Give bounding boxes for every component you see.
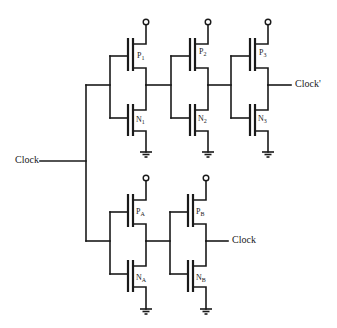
label-nb: NB <box>196 274 206 283</box>
label-n1: N1 <box>136 116 145 125</box>
clock-output-label: Clock <box>232 235 256 245</box>
nmos-n2 <box>171 85 214 157</box>
vdd-terminal-icon <box>143 19 149 25</box>
ground-icon <box>140 309 152 314</box>
label-p1: P1 <box>137 52 144 61</box>
label-pa: PA <box>136 208 145 217</box>
inverter-chain-schematic <box>0 0 337 328</box>
inverter-stage-b <box>170 175 228 314</box>
nmos-n3 <box>231 85 274 157</box>
vdd-terminal-icon <box>205 19 211 25</box>
vdd-terminal-icon <box>265 19 271 25</box>
clock-input-wire <box>40 85 110 241</box>
inverter-stage-3 <box>231 19 291 157</box>
label-n2: N2 <box>198 115 207 124</box>
label-n3: N3 <box>258 115 267 124</box>
ground-icon <box>262 152 274 157</box>
clock-prime-output-label: Clock' <box>295 79 321 89</box>
clock-input-label: Clock <box>15 155 39 165</box>
ground-icon <box>202 152 214 157</box>
ground-icon <box>140 152 152 157</box>
inverter-stage-2 <box>171 19 231 157</box>
label-pb: PB <box>196 208 204 217</box>
ground-icon <box>200 309 212 314</box>
label-na: NA <box>136 274 146 283</box>
vdd-terminal-icon <box>143 175 149 181</box>
label-p2: P2 <box>199 48 206 57</box>
vdd-terminal-icon <box>203 175 209 181</box>
inverter-stage-1 <box>110 19 171 157</box>
inverter-stage-a <box>110 175 170 314</box>
nmos-n1 <box>110 85 152 157</box>
label-p3: P3 <box>259 49 266 58</box>
